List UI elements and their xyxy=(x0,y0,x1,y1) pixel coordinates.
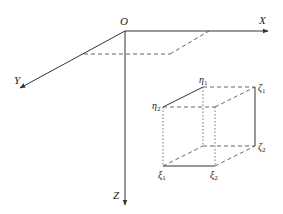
xy-plane-projection xyxy=(84,31,209,54)
label-zeta2: ζ2 xyxy=(258,141,266,154)
z-axis-label: Z xyxy=(113,189,120,201)
svg-text:η2: η2 xyxy=(152,100,161,113)
svg-text:η1: η1 xyxy=(199,74,208,87)
label-eta2: η2 xyxy=(152,100,161,113)
box-solid-edges xyxy=(163,87,255,166)
origin-label: O xyxy=(120,15,128,27)
coordinate-box-diagram: O X Y Z η1 η2 ζ1 ζ2 ξ1 ξ2 xyxy=(0,0,283,214)
box-dotted-edges xyxy=(163,87,215,166)
y-axis xyxy=(20,31,125,88)
svg-text:ζ2: ζ2 xyxy=(258,141,266,154)
label-zeta1: ζ1 xyxy=(258,82,266,95)
diagram-canvas: O X Y Z η1 η2 ζ1 ζ2 ξ1 ξ2 xyxy=(0,0,283,214)
axes xyxy=(20,31,268,205)
box-dashed-edges xyxy=(163,87,255,166)
label-xi1: ξ1 xyxy=(158,169,166,182)
svg-text:ζ1: ζ1 xyxy=(258,82,266,95)
svg-text:ξ1: ξ1 xyxy=(158,169,166,182)
y-axis-label: Y xyxy=(14,74,22,86)
x-axis-label: X xyxy=(258,14,267,26)
label-xi2: ξ2 xyxy=(210,169,218,182)
svg-text:ξ2: ξ2 xyxy=(210,169,218,182)
label-eta1: η1 xyxy=(199,74,208,87)
